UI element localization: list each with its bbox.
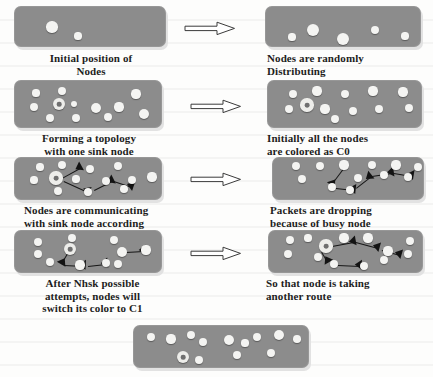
sensor-node — [68, 234, 76, 242]
sensor-node — [187, 331, 195, 339]
sensor-node — [74, 32, 81, 39]
sensor-node — [339, 160, 348, 169]
sensor-node — [199, 338, 207, 346]
link-arrowhead-icon — [348, 235, 357, 246]
sensor-node — [253, 333, 261, 341]
step-caption: Nodes are randomly Distributing — [267, 52, 427, 77]
sink-node-core — [305, 103, 310, 108]
sensor-node — [54, 187, 63, 196]
sensor-node — [383, 246, 392, 255]
sensor-node — [58, 161, 66, 169]
sensor-node — [195, 356, 203, 364]
sink-node — [300, 98, 313, 111]
sensor-node — [241, 339, 248, 346]
sink-node-core — [181, 355, 186, 360]
sensor-node — [86, 165, 94, 173]
communication-link — [336, 188, 354, 191]
communication-link — [64, 265, 84, 267]
sensor-node — [91, 103, 101, 113]
sensor-node — [360, 262, 368, 270]
sensor-node — [117, 247, 127, 257]
communication-link — [94, 181, 112, 191]
network-box — [133, 325, 309, 368]
link-arrowhead-icon — [348, 183, 356, 194]
network-box — [14, 230, 162, 273]
sensor-node — [34, 250, 42, 258]
sensor-node — [316, 162, 324, 170]
sensor-node — [34, 238, 42, 246]
sensor-node — [46, 114, 54, 122]
sensor-node — [114, 102, 123, 111]
sensor-node — [380, 256, 388, 264]
sensor-node — [102, 177, 110, 185]
sensor-node — [404, 250, 412, 258]
communication-link — [321, 252, 328, 263]
figure-stage: Initial position of Nodes Nodes are rand… — [0, 0, 433, 377]
sensor-node — [337, 33, 350, 46]
communication-link — [126, 251, 144, 253]
link-arrowhead-icon — [406, 168, 415, 179]
sensor-node — [224, 335, 234, 345]
right-arrow-icon — [190, 99, 242, 114]
communication-link — [332, 242, 354, 247]
sink-node — [319, 239, 332, 252]
sensor-node — [36, 163, 43, 170]
link-arrowhead-icon — [100, 257, 108, 268]
sensor-node — [293, 335, 301, 343]
sensor-node — [114, 162, 123, 171]
network-box — [265, 6, 421, 47]
sensor-node — [274, 330, 284, 340]
sensor-node — [328, 183, 336, 191]
sensor-node — [141, 245, 150, 254]
communication-link — [331, 168, 344, 185]
step-caption: So that node is taking another route — [266, 277, 428, 302]
sensor-node — [166, 334, 175, 343]
sensor-node — [368, 86, 377, 95]
sensor-node — [371, 26, 379, 34]
sink-node — [177, 351, 190, 364]
network-box — [14, 80, 162, 128]
sensor-node — [406, 237, 414, 245]
sensor-node — [58, 87, 66, 95]
network-box — [272, 157, 424, 200]
sensor-node — [72, 114, 80, 122]
link-arrowhead-icon — [125, 179, 135, 191]
sensor-node — [71, 101, 78, 108]
link-arrowhead-icon — [73, 161, 84, 173]
communication-link — [338, 265, 360, 267]
network-box — [14, 157, 162, 200]
sensor-node — [414, 163, 422, 171]
link-arrowhead-icon — [372, 240, 381, 251]
sensor-node — [284, 250, 292, 258]
sensor-node — [375, 105, 383, 113]
sensor-node — [120, 185, 128, 193]
link-arrowhead-icon — [81, 184, 92, 196]
sensor-node — [30, 176, 37, 183]
sensor-node — [349, 107, 357, 115]
sensor-node — [233, 351, 241, 359]
sensor-node — [46, 21, 57, 32]
link-arrowhead-icon — [321, 253, 333, 264]
link-arrowhead-icon — [355, 259, 362, 269]
step-caption: Packets are dropping because of busy nod… — [270, 204, 432, 229]
step-caption: Initial position of Nodes — [12, 52, 170, 77]
communication-link — [394, 173, 412, 177]
network-box — [267, 80, 422, 128]
link-arrowhead-icon — [57, 255, 69, 266]
sensor-node — [298, 175, 307, 184]
step-caption: After Nhsk possible attempts, nodes will… — [10, 277, 175, 315]
sensor-node — [380, 171, 388, 179]
sensor-node — [147, 333, 156, 342]
sensor-node — [147, 172, 156, 181]
communication-link — [114, 181, 132, 188]
sink-node — [49, 171, 62, 184]
link-arrowhead-icon — [79, 259, 86, 269]
communication-link — [372, 173, 392, 177]
link-arrowhead-icon — [394, 247, 403, 259]
link-arrowhead-icon — [105, 174, 116, 186]
sensor-node — [114, 260, 122, 268]
sink-node-core — [54, 176, 59, 181]
sink-node-core — [324, 244, 329, 249]
communication-link — [356, 242, 378, 249]
step-caption: Forming a topology with one sink node — [10, 132, 168, 157]
